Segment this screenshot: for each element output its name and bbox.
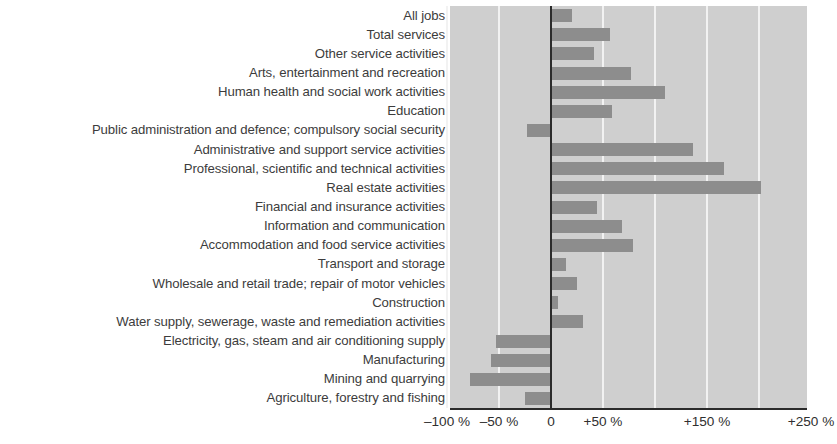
category-label: Other service activities — [0, 47, 445, 61]
category-label: Arts, entertainment and recreation — [0, 66, 445, 80]
bar — [551, 47, 594, 60]
category-label: Public administration and defence; compu… — [0, 123, 445, 137]
x-tick-label: +50 % — [584, 412, 623, 432]
bar — [491, 354, 551, 367]
plot-area — [450, 6, 807, 408]
bar — [551, 201, 597, 214]
category-label: Human health and social work activities — [0, 85, 445, 99]
category-label: Construction — [0, 296, 445, 310]
bar — [551, 315, 583, 328]
bar — [527, 124, 551, 137]
category-label: Manufacturing — [0, 353, 445, 367]
bar — [551, 9, 572, 22]
x-tick-label: –50 % — [480, 412, 519, 432]
bar — [551, 143, 693, 156]
bar — [551, 86, 665, 99]
bar-chart: All jobsTotal servicesOther service acti… — [0, 0, 837, 444]
x-tick-label: +150 % — [684, 412, 730, 432]
bar — [551, 277, 577, 290]
category-label: Water supply, sewerage, waste and remedi… — [0, 315, 445, 329]
category-label: Financial and insurance activities — [0, 200, 445, 214]
gridline — [654, 6, 656, 408]
category-label: Electricity, gas, steam and air conditio… — [0, 334, 445, 348]
bar — [551, 181, 761, 194]
x-tick-label: +250 % — [788, 412, 834, 432]
category-label: Transport and storage — [0, 257, 445, 271]
category-label: All jobs — [0, 9, 445, 23]
x-axis-line — [450, 408, 807, 410]
category-label: Education — [0, 104, 445, 118]
x-tick-label: –100 % — [424, 412, 470, 432]
category-label-column: All jobsTotal servicesOther service acti… — [0, 6, 445, 408]
gridline — [498, 6, 500, 408]
category-label: Administrative and support service activ… — [0, 143, 445, 157]
category-label: Professional, scientific and technical a… — [0, 162, 445, 176]
x-axis-tick-labels: –100 %–50 %0+50 %+150 %+250 % — [0, 412, 837, 436]
gridline — [446, 6, 448, 408]
bar — [551, 220, 622, 233]
bar — [525, 392, 551, 405]
category-label: Mining and quarrying — [0, 372, 445, 386]
gridline — [706, 6, 708, 408]
x-tick-label: 0 — [547, 412, 555, 432]
category-label: Total services — [0, 28, 445, 42]
category-label: Agriculture, forestry and fishing — [0, 391, 445, 405]
category-label: Information and communication — [0, 219, 445, 233]
category-label: Real estate activities — [0, 181, 445, 195]
bar — [496, 335, 551, 348]
bar — [551, 67, 631, 80]
bar — [551, 162, 724, 175]
category-label: Wholesale and retail trade; repair of mo… — [0, 277, 445, 291]
category-label: Accommodation and food service activitie… — [0, 238, 445, 252]
bar — [551, 258, 566, 271]
bar — [551, 296, 558, 309]
bar — [551, 28, 610, 41]
bar — [470, 373, 551, 386]
bar — [551, 105, 612, 118]
gridline — [758, 6, 760, 408]
zero-axis-line — [550, 6, 552, 408]
bar — [551, 239, 633, 252]
